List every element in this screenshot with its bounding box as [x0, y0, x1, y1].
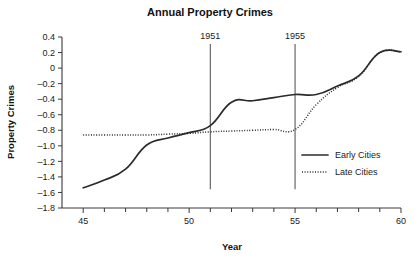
y-tick-label: –0.8 — [37, 125, 55, 135]
chart-container: Annual Property Crimes Property Crimes Y… — [0, 0, 420, 259]
x-tick-label: 45 — [78, 216, 88, 226]
chart-title: Annual Property Crimes — [147, 6, 273, 18]
reference-lines: 19511955 — [200, 31, 305, 189]
y-axis: 0.40.20–0.2–0.4–0.6–0.8–1.0–1.2–1.4–1.6–… — [37, 32, 62, 213]
series-line-late-cities — [83, 50, 401, 135]
y-axis-title: Property Crimes — [5, 85, 16, 159]
x-axis: 45505560 — [62, 208, 406, 226]
x-tick-label: 55 — [290, 216, 300, 226]
chart-legend: Early CitiesLate Cities — [302, 150, 381, 177]
annual-property-crimes-chart: Annual Property Crimes Property Crimes Y… — [0, 0, 420, 259]
y-tick-label: –1.0 — [37, 141, 55, 151]
y-tick-label: 0.2 — [42, 48, 55, 58]
y-tick-label: –1.6 — [37, 188, 55, 198]
x-tick-label: 50 — [184, 216, 194, 226]
legend-label-late-cities: Late Cities — [335, 167, 378, 177]
x-tick-label: 60 — [396, 216, 406, 226]
y-tick-label: –1.8 — [37, 203, 55, 213]
legend-label-early-cities: Early Cities — [335, 150, 381, 160]
y-tick-label: –0.6 — [37, 110, 55, 120]
y-tick-label: –0.2 — [37, 79, 55, 89]
x-axis-title: Year — [222, 241, 242, 252]
reference-line-label-1955: 1955 — [285, 31, 305, 41]
y-tick-label: –1.2 — [37, 157, 55, 167]
reference-line-label-1951: 1951 — [200, 31, 220, 41]
y-tick-label: 0.4 — [42, 32, 55, 42]
y-tick-label: –0.4 — [37, 94, 55, 104]
y-tick-label: 0 — [50, 63, 55, 73]
y-tick-label: –1.4 — [37, 172, 55, 182]
